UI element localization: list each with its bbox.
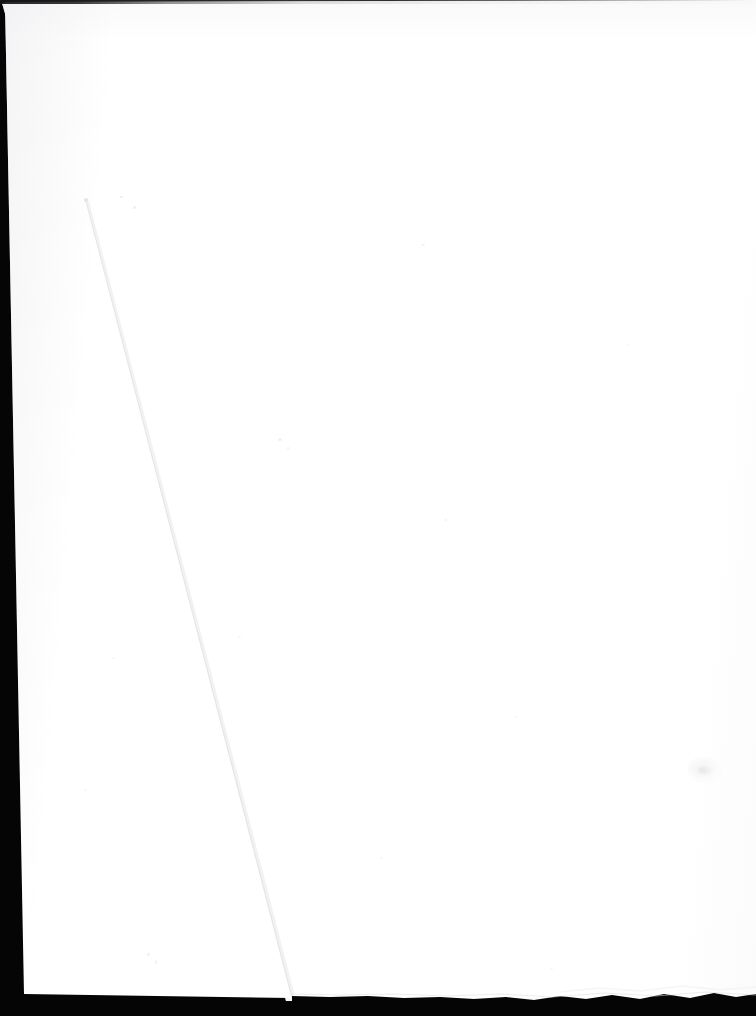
top-sheet-page: [0, 0, 756, 1016]
top-scanline: [0, 0, 756, 4]
scanned-page-canvas: [0, 0, 756, 1016]
